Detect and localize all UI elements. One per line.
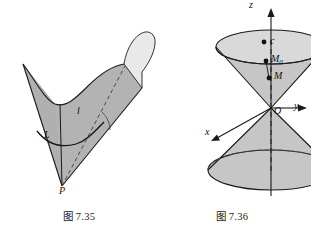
label-origin-O: O — [274, 106, 281, 116]
z-axis-arrow — [267, 8, 274, 17]
figure-caption-735: 图 7.35 — [0, 208, 158, 223]
figure-panel-735: l L P 图 7.35 — [0, 0, 158, 233]
label-point-M0: M0 — [271, 54, 283, 66]
figure-caption-736: 图 7.36 — [153, 208, 311, 223]
label-point-M0-subscript: 0 — [279, 58, 283, 66]
figure-sheet: l L P 图 7.35 — [0, 0, 311, 233]
label-curve-L: L — [44, 130, 50, 140]
label-z-axis: z — [249, 0, 253, 10]
label-x-axis: x — [205, 127, 209, 137]
x-axis-arrow — [211, 135, 220, 141]
label-point-M: M — [274, 71, 282, 81]
ruled-surface-diagram — [0, 0, 158, 205]
label-point-c: c — [270, 36, 274, 46]
figure-panel-736: z y x O c M0 M 图 7.36 — [153, 0, 311, 233]
label-apex-P: P — [59, 186, 65, 196]
double-cone-diagram — [153, 0, 311, 205]
label-y-axis: y — [294, 101, 298, 111]
dot-point-c — [262, 40, 267, 45]
label-curve-l: l — [77, 106, 80, 116]
surface-main-fill — [23, 64, 142, 186]
y-axis-arrow — [298, 104, 307, 111]
